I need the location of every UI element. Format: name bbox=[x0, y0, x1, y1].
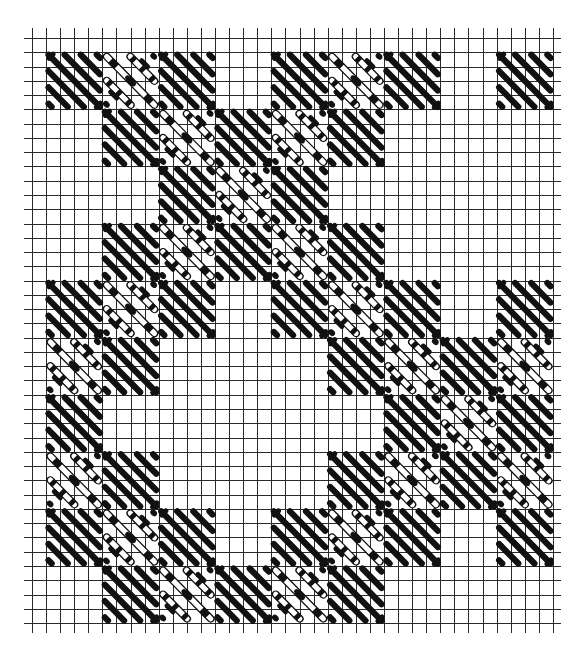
stitch-stroke-short bbox=[105, 111, 109, 115]
solid-stitch-block bbox=[161, 168, 213, 221]
open-stitch-block bbox=[46, 452, 103, 510]
stitch-stroke-short bbox=[322, 560, 326, 564]
stitch-stroke-short bbox=[322, 103, 326, 107]
stitch-knot bbox=[46, 500, 54, 508]
solid-stitch-block bbox=[274, 54, 326, 107]
stitch-stroke bbox=[97, 55, 100, 58]
stitch-stroke bbox=[330, 389, 333, 392]
stitch-knot bbox=[206, 566, 214, 574]
stitch-stroke bbox=[153, 454, 156, 457]
stitch-stroke bbox=[435, 55, 438, 58]
stitch-stroke bbox=[322, 283, 325, 286]
stitch-stroke-short bbox=[105, 454, 109, 458]
stitch-stroke bbox=[97, 511, 100, 514]
stitch-stroke-short bbox=[500, 397, 504, 401]
stitch-stroke-short bbox=[491, 389, 495, 393]
stitch-stroke bbox=[217, 161, 220, 164]
stitch-stroke bbox=[330, 503, 333, 506]
stitch-stroke bbox=[274, 560, 277, 563]
stitch-knot bbox=[271, 614, 279, 622]
stitch-knot bbox=[271, 157, 279, 165]
stitch-stroke-short bbox=[500, 283, 504, 287]
stitch-stroke bbox=[547, 283, 550, 286]
solid-stitch-block bbox=[499, 54, 551, 107]
stitch-stroke bbox=[161, 218, 164, 221]
stitch-knot bbox=[150, 52, 158, 60]
solid-stitch-block bbox=[330, 340, 382, 393]
stitch-stroke-short bbox=[96, 446, 100, 450]
stitch-stroke-short bbox=[378, 275, 382, 279]
stitch-stroke bbox=[266, 226, 269, 229]
stitch-stroke bbox=[435, 511, 438, 514]
stitch-stroke bbox=[499, 446, 502, 449]
stitch-stroke-short bbox=[387, 283, 391, 287]
open-stitch-block bbox=[102, 280, 159, 338]
solid-stitch-block bbox=[161, 54, 213, 107]
stitch-stroke-short bbox=[331, 111, 335, 115]
stitch-stroke-short bbox=[547, 446, 551, 450]
stitch-stroke bbox=[97, 283, 100, 286]
solid-stitch-block bbox=[161, 511, 213, 564]
solid-stitch-block bbox=[105, 111, 157, 164]
stitch-stroke bbox=[153, 568, 156, 571]
stitch-stroke bbox=[217, 617, 220, 620]
stitch-stroke bbox=[49, 560, 52, 563]
stitch-stroke bbox=[209, 511, 212, 514]
solid-stitch-block bbox=[499, 397, 551, 450]
stitch-stroke-short bbox=[331, 340, 335, 344]
stitch-stroke bbox=[547, 55, 550, 58]
stitch-stroke-short bbox=[153, 275, 157, 279]
stitch-stroke-short bbox=[274, 168, 278, 172]
stitch-knot bbox=[46, 386, 54, 394]
stitch-stroke-short bbox=[547, 103, 551, 107]
stitch-stroke bbox=[443, 503, 446, 506]
stitch-knot bbox=[384, 386, 392, 394]
stitch-knot bbox=[431, 452, 439, 460]
stitch-stroke bbox=[209, 55, 212, 58]
stitch-stroke-short bbox=[218, 226, 222, 230]
stitch-stroke-short bbox=[443, 454, 447, 458]
stitch-knot bbox=[375, 52, 383, 60]
stitch-stroke-short bbox=[105, 340, 109, 344]
stitch-stroke bbox=[330, 161, 333, 164]
stitch-stroke bbox=[386, 104, 389, 107]
stitch-stroke-short bbox=[387, 397, 391, 401]
stitch-stroke bbox=[322, 169, 325, 172]
solid-stitch-block bbox=[217, 111, 269, 164]
solid-stitch-block bbox=[386, 511, 438, 564]
stitch-stroke-short bbox=[547, 560, 551, 564]
open-stitch-block bbox=[327, 280, 384, 338]
stitch-stroke bbox=[161, 104, 164, 107]
stitch-stroke-short bbox=[153, 617, 157, 621]
solid-stitch-block bbox=[105, 454, 157, 507]
open-stitch-block bbox=[271, 109, 328, 167]
solid-stitch-block bbox=[105, 226, 157, 279]
open-stitch-block bbox=[327, 509, 384, 567]
stitch-grid-canvas bbox=[0, 0, 587, 669]
stitch-knot bbox=[262, 166, 270, 174]
stitch-stroke bbox=[105, 617, 108, 620]
stitch-stroke bbox=[217, 275, 220, 278]
stitch-chart bbox=[0, 0, 587, 669]
stitch-stroke bbox=[209, 283, 212, 286]
stitch-stroke-short bbox=[265, 275, 269, 279]
stitch-stroke bbox=[153, 340, 156, 343]
stitch-stroke-short bbox=[378, 389, 382, 393]
stitch-stroke-short bbox=[96, 103, 100, 107]
stitch-stroke bbox=[97, 397, 100, 400]
solid-stitch-block bbox=[49, 511, 101, 564]
stitch-stroke-short bbox=[209, 332, 213, 336]
stitch-stroke-short bbox=[218, 568, 222, 572]
stitch-stroke bbox=[378, 112, 381, 115]
solid-stitch-block bbox=[443, 340, 495, 393]
stitch-knot bbox=[440, 443, 448, 451]
open-stitch-block bbox=[102, 52, 159, 110]
stitch-stroke-short bbox=[105, 226, 109, 230]
stitch-knot bbox=[544, 452, 552, 460]
solid-stitch-block bbox=[274, 511, 326, 564]
stitch-stroke-short bbox=[218, 111, 222, 115]
solid-stitch-block bbox=[105, 340, 157, 393]
stitch-stroke bbox=[378, 568, 381, 571]
stitch-knot bbox=[319, 566, 327, 574]
stitch-knot bbox=[215, 215, 223, 223]
